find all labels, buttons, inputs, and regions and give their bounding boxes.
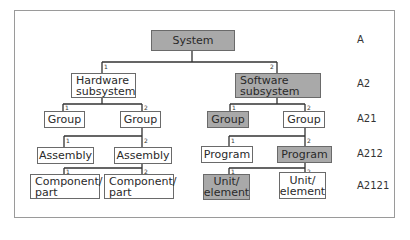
node-label: Assembly (116, 150, 169, 161)
node-unit-1: Unit/ element (203, 174, 250, 200)
node-label: Program (281, 149, 327, 160)
node-label-line2: subsystem (76, 86, 135, 97)
node-label-line2: element (280, 186, 325, 197)
branch-number: 2 (307, 138, 311, 144)
node-label: Group (124, 114, 158, 125)
branch-number: 1 (104, 64, 108, 70)
level-code-a2121: A2121 (357, 180, 389, 191)
node-hw-group-2: Group (120, 111, 161, 128)
node-system: System (151, 30, 235, 51)
node-label-line2: part (109, 187, 132, 198)
branch-number: 1 (231, 138, 235, 144)
node-label-line1: Component/ (35, 176, 103, 187)
branch-number: 1 (66, 138, 70, 144)
node-assembly-2: Assembly (114, 147, 172, 164)
node-component-2: Component/ part (104, 174, 174, 199)
node-component-1: Component/ part (30, 174, 100, 199)
node-label-line1: Unit/ (289, 175, 315, 186)
node-label: Group (48, 114, 82, 125)
node-label-line2: element (204, 187, 249, 198)
node-software-subsystem: Software subsystem (235, 73, 321, 98)
node-sw-group-2: Group (283, 111, 325, 128)
level-code-a212: A212 (357, 148, 383, 159)
node-label: Program (204, 149, 250, 160)
node-hw-group-1: Group (44, 111, 85, 128)
node-label: Group (287, 114, 321, 125)
connector-software (230, 97, 305, 111)
level-code-a: A (357, 34, 364, 45)
level-code-a2: A2 (357, 78, 370, 89)
branch-number: 2 (144, 138, 148, 144)
node-hardware-subsystem: Hardware subsystem (71, 73, 136, 98)
node-program-2: Program (277, 146, 332, 163)
node-unit-2: Unit/ element (279, 172, 326, 199)
connector-hw-group (64, 127, 142, 147)
connector-hardware (63, 97, 142, 111)
node-label-line1: Hardware (76, 75, 129, 86)
level-code-a21: A21 (357, 113, 377, 124)
node-label: System (172, 35, 213, 46)
connector-system (102, 50, 277, 73)
connector-sw-group (229, 127, 305, 146)
node-label-line2: subsystem (240, 86, 299, 97)
node-label-line1: Component/ (109, 176, 177, 187)
node-label: Assembly (39, 150, 92, 161)
connector-assembly (64, 163, 142, 174)
node-label-line2: part (35, 187, 58, 198)
node-label-line1: Software (240, 75, 289, 86)
node-program-1: Program (201, 146, 253, 163)
node-label: Group (211, 114, 245, 125)
branch-number: 2 (270, 64, 274, 70)
node-sw-group-1: Group (207, 111, 249, 128)
node-assembly-1: Assembly (37, 147, 94, 164)
